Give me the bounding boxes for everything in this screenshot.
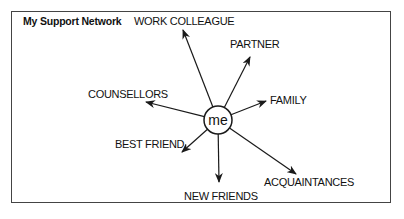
- node-label-family: FAMILY: [270, 94, 307, 106]
- arrow-to-work-colleague: [183, 30, 213, 107]
- center-label: me: [208, 112, 228, 128]
- arrow-to-family: [231, 101, 266, 115]
- arrow-to-acquaintances: [230, 128, 297, 174]
- node-label-acquaintances: ACQUAINTANCES: [264, 176, 354, 188]
- center-node: me: [204, 106, 232, 134]
- node-label-new-friends: NEW FRIENDS: [184, 190, 258, 202]
- arrow-to-new-friends: [218, 134, 219, 182]
- node-label-work-colleague: WORK COLLEAGUE: [134, 15, 234, 27]
- node-label-best-friend: BEST FRIEND: [115, 138, 185, 150]
- arrow-to-counsellors: [146, 102, 204, 117]
- node-label-partner: PARTNER: [230, 38, 280, 50]
- arrow-to-best-friend: [182, 129, 208, 152]
- node-label-counsellors: COUNSELLORS: [88, 88, 168, 100]
- arrow-to-partner: [224, 57, 250, 108]
- support-network-diagram: me WORK COLLEAGUE PARTNER FAMILY COUNSEL…: [0, 0, 404, 219]
